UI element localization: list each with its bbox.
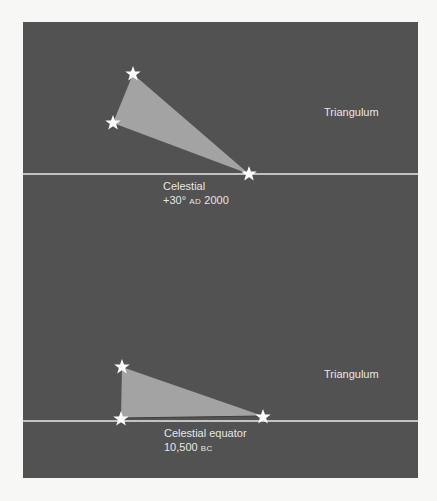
triangulum-shape-10500bc <box>121 367 263 418</box>
line-label-top: Celestial +30° AD 2000 <box>163 179 229 209</box>
star-icon <box>241 166 256 181</box>
line-label-bottom-line1: Celestial equator <box>164 426 247 440</box>
year-value: 10,500 <box>164 441 198 453</box>
top-section <box>23 66 418 181</box>
line-label-bottom: Celestial equator 10,500 BC <box>164 426 247 456</box>
year-value: 2000 <box>204 194 228 206</box>
constellation-label-bottom: Triangulum <box>324 367 379 381</box>
line-label-top-line2: +30° AD 2000 <box>163 193 229 209</box>
declination-value: +30° <box>163 194 186 206</box>
line-label-top-line1: Celestial <box>163 179 229 193</box>
line-label-bottom-line2: 10,500 BC <box>164 440 247 456</box>
era-label: BC <box>201 444 213 453</box>
constellation-label-top: Triangulum <box>324 105 379 119</box>
era-label: AD <box>189 197 201 206</box>
triangulum-shape-ad2000 <box>113 74 249 174</box>
